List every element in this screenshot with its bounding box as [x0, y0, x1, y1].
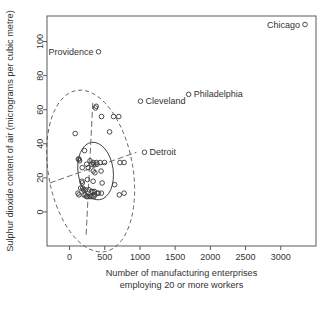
y-axis-title: Sulphur dioxide content of air (microgra…	[5, 10, 15, 252]
x-axis-title-line1: Number of manufacturing enterprises	[106, 268, 258, 278]
data-point	[107, 130, 112, 135]
x-tick-label: 3000	[271, 252, 291, 262]
point-label-providence: Providence	[49, 47, 94, 57]
point-label-chicago: Chicago	[267, 20, 300, 30]
data-point	[80, 165, 85, 170]
y-tick-label: 20	[35, 173, 45, 183]
data-point	[82, 148, 87, 153]
x-tick-label: 1500	[165, 252, 185, 262]
y-tick-label: 40	[35, 139, 45, 149]
data-point	[111, 114, 116, 119]
x-tick-label: 2000	[200, 252, 220, 262]
x-tick-label: 500	[97, 252, 112, 262]
x-axis-title-line2: employing 20 or more workers	[120, 280, 244, 290]
data-points-layer	[73, 22, 307, 199]
data-point-philadelphia	[186, 92, 191, 97]
data-point	[100, 181, 105, 186]
y-tick-label: 60	[35, 105, 45, 115]
x-tick-label: 1000	[130, 252, 150, 262]
data-point	[99, 169, 104, 174]
data-point	[99, 191, 104, 196]
data-point-chicago	[303, 22, 308, 27]
point-labels-layer: ChicagoProvidencePhiladelphiaClevelandDe…	[49, 20, 300, 158]
x-tick-label: 2500	[236, 252, 256, 262]
y-tick-label: 0	[35, 209, 45, 214]
data-point	[91, 179, 96, 184]
data-point	[116, 114, 121, 119]
data-point	[122, 191, 127, 196]
data-point	[102, 160, 107, 165]
data-point-cleveland	[138, 99, 143, 104]
axis-titles-layer: Number of manufacturing enterprisesemplo…	[5, 10, 258, 290]
data-point	[117, 193, 122, 198]
axis-guide-layer	[50, 103, 137, 236]
point-label-cleveland: Cleveland	[145, 96, 185, 106]
y-tick-label: 80	[35, 71, 45, 81]
data-point	[112, 182, 117, 187]
chart-root: 050010001500200025003000020406080100 Chi…	[0, 0, 333, 315]
major-axis-line	[50, 152, 137, 183]
y-tick-label: 100	[35, 34, 45, 49]
scatter-plot: 050010001500200025003000020406080100 Chi…	[0, 0, 333, 315]
x-tick-label: 0	[67, 252, 72, 262]
data-point-providence	[96, 49, 101, 54]
data-point	[99, 114, 104, 119]
data-point	[73, 131, 78, 136]
point-label-philadelphia: Philadelphia	[194, 89, 243, 99]
point-label-detroit: Detroit	[149, 147, 176, 157]
data-point-detroit	[142, 150, 147, 155]
